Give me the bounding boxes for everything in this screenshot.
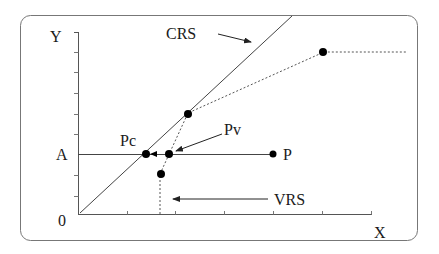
level-a-label: A xyxy=(56,146,68,163)
efficiency-diagram: Y X 0 A CRS Pc Pv P VRS xyxy=(0,0,439,254)
vrs-label: VRS xyxy=(274,191,305,208)
pv-pointer-arrow xyxy=(176,134,222,151)
point-pc xyxy=(142,150,150,158)
pc-label: Pc xyxy=(120,132,136,149)
origin-label: 0 xyxy=(58,212,66,229)
y-axis xyxy=(74,32,79,214)
point-vrs-lower xyxy=(157,170,165,178)
diagram-frame xyxy=(21,16,418,241)
pc-arrowhead-icon xyxy=(150,151,157,157)
point-p xyxy=(270,151,277,158)
p-label: P xyxy=(283,146,292,163)
crs-label: CRS xyxy=(166,25,196,42)
point-vrs-mid xyxy=(184,110,192,118)
pv-label: Pv xyxy=(224,121,241,138)
vrs-frontier-line xyxy=(160,52,407,214)
point-pv xyxy=(165,150,173,158)
x-axis xyxy=(78,211,372,215)
x-axis-label: X xyxy=(374,224,386,241)
point-vrs-upper xyxy=(319,48,327,56)
y-axis-label: Y xyxy=(50,28,62,45)
crs-pointer-arrow xyxy=(218,34,251,42)
